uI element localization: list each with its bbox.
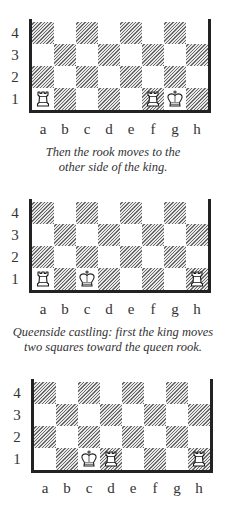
file-label: h bbox=[186, 121, 208, 137]
square-f2 bbox=[142, 246, 164, 268]
square-g3 bbox=[166, 404, 188, 426]
square-b3 bbox=[54, 44, 76, 66]
square-g1 bbox=[164, 268, 186, 290]
square-b4 bbox=[54, 22, 76, 44]
square-d1 bbox=[98, 88, 120, 110]
file-label: c bbox=[76, 301, 98, 317]
square-h4 bbox=[186, 22, 208, 44]
square-e1 bbox=[120, 88, 142, 110]
board-frame-bottom bbox=[29, 290, 211, 293]
square-d4 bbox=[98, 202, 120, 224]
square-f3 bbox=[144, 404, 166, 426]
square-h4 bbox=[186, 202, 208, 224]
diagram-caption-line: two squares toward the queen rook. bbox=[0, 340, 226, 355]
rook-icon bbox=[143, 89, 163, 109]
square-a1 bbox=[32, 88, 54, 110]
square-e2 bbox=[120, 246, 142, 268]
square-c4 bbox=[76, 22, 98, 44]
square-b4 bbox=[54, 202, 76, 224]
square-e3 bbox=[120, 224, 142, 246]
square-d2 bbox=[100, 426, 122, 448]
file-label: a bbox=[34, 480, 56, 496]
square-f2 bbox=[144, 426, 166, 448]
board-frame-bottom bbox=[31, 470, 213, 473]
square-c1 bbox=[76, 88, 98, 110]
square-b4 bbox=[56, 382, 78, 404]
board-frame-right bbox=[208, 199, 211, 293]
square-g4 bbox=[166, 382, 188, 404]
square-h3 bbox=[186, 44, 208, 66]
square-b1 bbox=[56, 448, 78, 470]
square-c1 bbox=[76, 268, 98, 290]
square-d3 bbox=[98, 224, 120, 246]
square-a4 bbox=[34, 382, 56, 404]
file-label: g bbox=[164, 301, 186, 317]
board-frame-right bbox=[208, 19, 211, 113]
file-label: f bbox=[142, 121, 164, 137]
rank-label: 2 bbox=[8, 246, 22, 268]
king-icon bbox=[77, 269, 97, 289]
square-f2 bbox=[142, 66, 164, 88]
file-label: b bbox=[54, 301, 76, 317]
square-b2 bbox=[54, 246, 76, 268]
white-king-piece bbox=[76, 268, 98, 290]
square-h2 bbox=[186, 246, 208, 268]
rank-label: 2 bbox=[8, 66, 22, 88]
square-c2 bbox=[78, 426, 100, 448]
square-d3 bbox=[100, 404, 122, 426]
square-a3 bbox=[32, 44, 54, 66]
square-a1 bbox=[34, 448, 56, 470]
square-h1 bbox=[188, 448, 210, 470]
file-label: e bbox=[122, 480, 144, 496]
file-label: h bbox=[186, 301, 208, 317]
square-f1 bbox=[142, 88, 164, 110]
square-e2 bbox=[120, 66, 142, 88]
white-rook-piece bbox=[32, 268, 54, 290]
square-e1 bbox=[120, 268, 142, 290]
square-h1 bbox=[186, 268, 208, 290]
square-f1 bbox=[142, 268, 164, 290]
square-d1 bbox=[98, 268, 120, 290]
file-label: a bbox=[32, 301, 54, 317]
square-g3 bbox=[164, 224, 186, 246]
rook-icon bbox=[101, 449, 121, 469]
rank-label: 4 bbox=[8, 202, 22, 224]
square-h3 bbox=[186, 224, 208, 246]
square-c3 bbox=[78, 404, 100, 426]
square-a4 bbox=[32, 22, 54, 44]
square-c4 bbox=[76, 202, 98, 224]
rook-icon bbox=[33, 89, 53, 109]
square-f4 bbox=[142, 22, 164, 44]
rank-label: 4 bbox=[8, 22, 22, 44]
square-e4 bbox=[120, 22, 142, 44]
white-king-piece bbox=[78, 448, 100, 470]
square-e4 bbox=[122, 382, 144, 404]
white-rook-piece bbox=[32, 88, 54, 110]
square-a2 bbox=[32, 66, 54, 88]
file-label: c bbox=[78, 480, 100, 496]
square-c3 bbox=[76, 44, 98, 66]
square-b3 bbox=[56, 404, 78, 426]
square-g2 bbox=[164, 246, 186, 268]
file-label: c bbox=[76, 121, 98, 137]
square-h1 bbox=[186, 88, 208, 110]
square-e1 bbox=[122, 448, 144, 470]
board-frame-bottom bbox=[29, 110, 211, 113]
square-a4 bbox=[32, 202, 54, 224]
square-g3 bbox=[164, 44, 186, 66]
square-a2 bbox=[34, 426, 56, 448]
square-b1 bbox=[54, 88, 76, 110]
square-g4 bbox=[164, 202, 186, 224]
white-king-piece bbox=[164, 88, 186, 110]
file-label: d bbox=[98, 301, 120, 317]
square-h4 bbox=[188, 382, 210, 404]
square-b1 bbox=[54, 268, 76, 290]
square-f1 bbox=[144, 448, 166, 470]
square-g1 bbox=[166, 448, 188, 470]
diagram-caption-line: Then the rook moves to the bbox=[0, 145, 226, 160]
square-c1 bbox=[78, 448, 100, 470]
square-f3 bbox=[142, 224, 164, 246]
square-d1 bbox=[100, 448, 122, 470]
white-rook-piece bbox=[186, 268, 208, 290]
king-icon bbox=[165, 89, 185, 109]
